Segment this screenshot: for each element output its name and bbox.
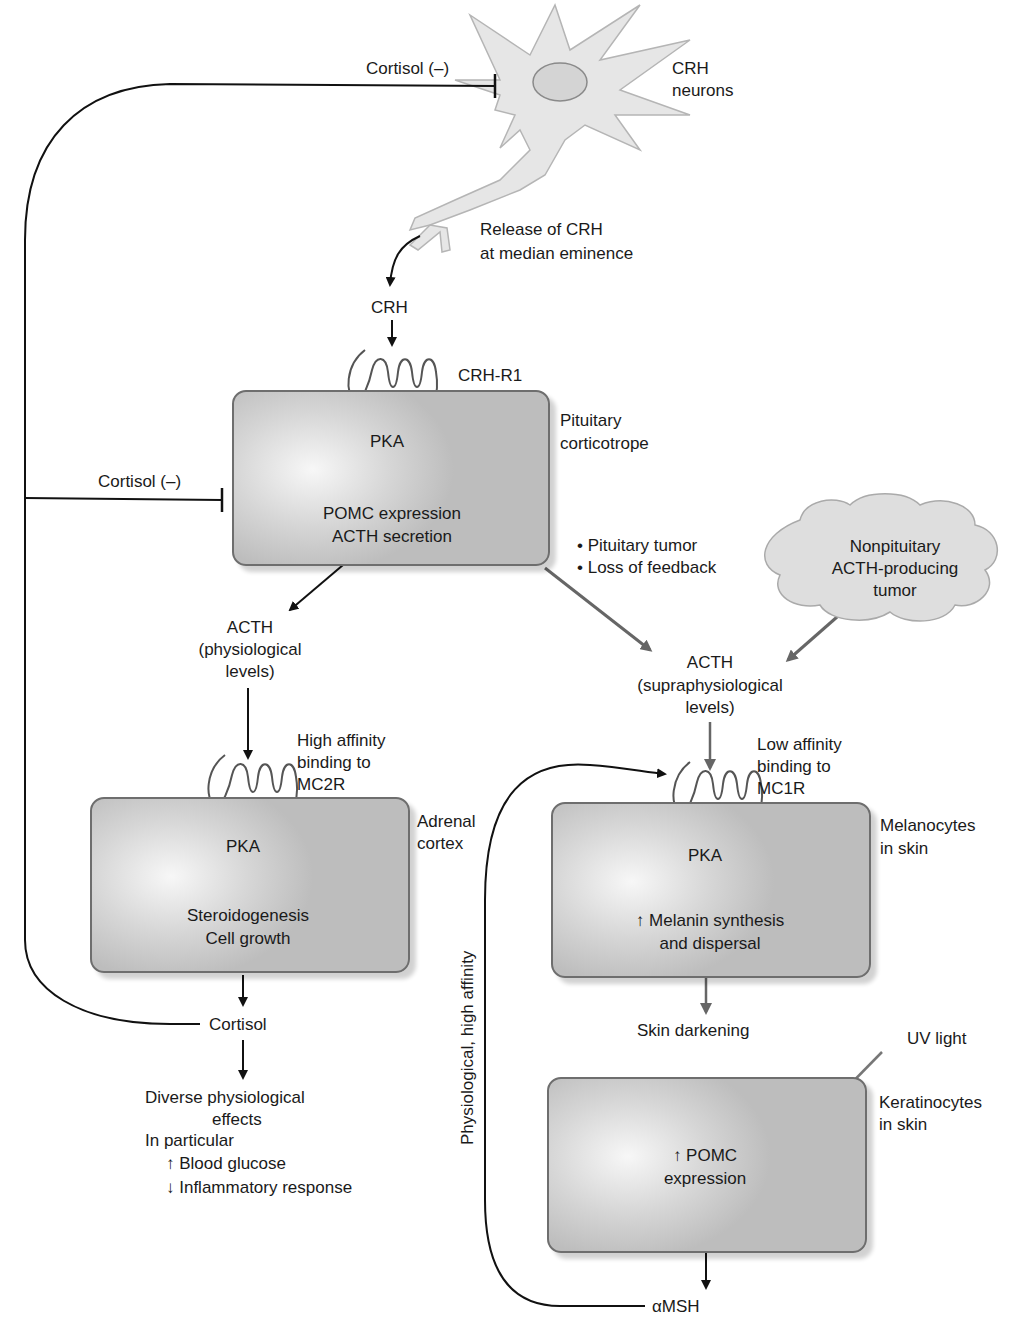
crh-label: CRH — [371, 297, 408, 319]
feedback-cortisol-neuron-label: Cortisol (–) — [366, 58, 449, 80]
effects-5: ↓ Inflammatory response — [166, 1177, 352, 1199]
effects-2: effects — [212, 1109, 262, 1131]
keratinocyte-text-1: ↑ POMC — [605, 1145, 805, 1167]
melanocyte-name-1: Melanocytes — [880, 815, 975, 837]
adrenal-text-2: Cell growth — [148, 928, 348, 950]
acth-supra-1: ACTH — [610, 652, 810, 674]
acth-phys-3: levels) — [170, 661, 330, 683]
pituitary-name-2: corticotrope — [560, 433, 649, 455]
crh-r1-label: CRH-R1 — [458, 365, 522, 387]
keratinocyte-text-2: expression — [605, 1168, 805, 1190]
keratinocyte-name-1: Keratinocytes — [879, 1092, 982, 1114]
effects-3: In particular — [145, 1130, 234, 1152]
mc2r-binding-1: High affinity — [297, 730, 386, 752]
tumor-cloud-text-1: Nonpituitary — [800, 536, 990, 558]
effects-1: Diverse physiological — [145, 1087, 305, 1109]
melanocyte-name-2: in skin — [880, 838, 928, 860]
tumor-cloud-text-2: ACTH-producing — [800, 558, 990, 580]
adrenal-text-1: Steroidogenesis — [148, 905, 348, 927]
pituitary-text-1: POMC expression — [292, 503, 492, 525]
adrenal-pka: PKA — [226, 836, 260, 858]
acth-phys-1: ACTH — [170, 617, 330, 639]
tumor-cloud-text-3: tumor — [800, 580, 990, 602]
physiological-loop-label: Physiological, high affinity — [458, 951, 478, 1145]
mc2r-binding-2: binding to — [297, 752, 371, 774]
keratinocyte-name-2: in skin — [879, 1114, 927, 1136]
cortisol-label: Cortisol — [209, 1014, 267, 1036]
pituitary-pka: PKA — [370, 431, 404, 453]
acth-phys-2: (physiological — [170, 639, 330, 661]
uv-light-label: UV light — [907, 1028, 967, 1050]
mc1r-binding-2: binding to — [757, 756, 831, 778]
pathology-bullet-1: • Pituitary tumor — [577, 535, 697, 557]
pituitary-text-2: ACTH secretion — [292, 526, 492, 548]
pituitary-name-1: Pituitary — [560, 410, 621, 432]
effects-4: ↑ Blood glucose — [166, 1153, 286, 1175]
crh-neurons-label-1: CRH — [672, 58, 709, 80]
release-label-1: Release of CRH — [480, 219, 603, 241]
adrenal-name-2: cortex — [417, 833, 463, 855]
adrenal-name-1: Adrenal — [417, 811, 476, 833]
acth-supra-2: (supraphysiological — [610, 675, 810, 697]
alpha-msh-label: αMSH — [652, 1296, 700, 1318]
mc1r-binding-3: MC1R — [757, 778, 805, 800]
mc1r-binding-1: Low affinity — [757, 734, 842, 756]
mc2r-binding-3: MC2R — [297, 774, 345, 796]
release-label-2: at median eminence — [480, 243, 633, 265]
melanocyte-text-2: and dispersal — [600, 933, 820, 955]
pathology-bullet-2: • Loss of feedback — [577, 557, 716, 579]
crh-neuron-icon — [410, 5, 690, 252]
feedback-cortisol-pituitary-label: Cortisol (–) — [98, 471, 181, 493]
melanocyte-pka: PKA — [688, 845, 722, 867]
acth-supra-3: levels) — [610, 697, 810, 719]
melanocyte-text-1: ↑ Melanin synthesis — [600, 910, 820, 932]
crh-neurons-label-2: neurons — [672, 80, 733, 102]
skin-darkening-label: Skin darkening — [637, 1020, 749, 1042]
